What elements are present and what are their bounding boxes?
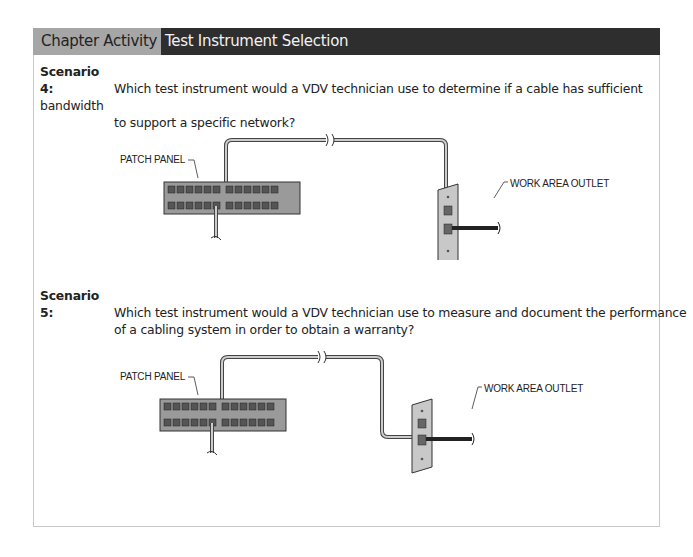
activity-title: Test Instrument Selection <box>161 28 660 55</box>
question-line-1: Which test instrument would a VDV techni… <box>114 305 686 320</box>
question-line-1: Which test instrument would a VDV techni… <box>40 81 643 113</box>
work-area-outlet-label: WORK AREA OUTLET <box>484 383 583 394</box>
scenario-5-diagram: PATCH PANEL WORK AREA OUTLET <box>100 335 620 485</box>
patch-panel-to-outlet-illustration <box>100 335 620 485</box>
patch-panel-label: PATCH PANEL <box>120 154 185 165</box>
scenario-label: Scenario 4: <box>40 63 114 97</box>
scenario-5-question: Scenario 5:Which test instrument would a… <box>40 287 686 338</box>
scenario-label: Scenario 5: <box>40 287 114 321</box>
patch-panel-label: PATCH PANEL <box>120 371 185 382</box>
section-label: Chapter Activity <box>33 28 161 55</box>
activity-header: Chapter Activity Test Instrument Selecti… <box>33 28 660 55</box>
work-area-outlet-label: WORK AREA OUTLET <box>510 178 609 189</box>
scenario-4-diagram: PATCH PANEL WORK AREA OUTLET <box>100 110 620 260</box>
